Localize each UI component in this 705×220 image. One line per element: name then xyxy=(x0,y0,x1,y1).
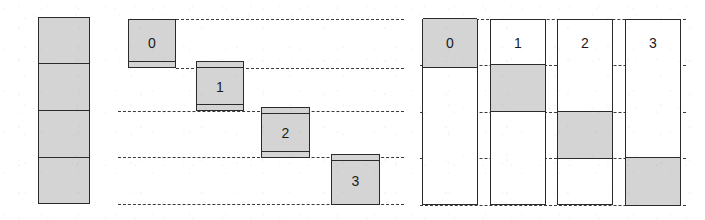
left-column-divider-3 xyxy=(39,157,89,158)
staircase-block-2-label: 2 xyxy=(261,126,310,140)
middle-guide-line-1 xyxy=(176,19,404,20)
right-column-3-filled-segment xyxy=(626,157,680,206)
left-column-outline xyxy=(38,17,90,204)
left-column-divider-2 xyxy=(39,110,89,111)
staircase-block-3-divider-top xyxy=(332,160,379,161)
right-column-3-label: 3 xyxy=(625,36,681,50)
right-column-0-label: 0 xyxy=(422,36,478,50)
block-distribution-diagram: 0 1 2 3 0 xyxy=(0,0,705,220)
staircase-block-2-divider-top xyxy=(262,113,309,114)
staircase-block-1-label: 1 xyxy=(196,80,244,94)
staircase-block-0-label: 0 xyxy=(128,36,176,50)
staircase-block-3-label: 3 xyxy=(331,174,380,188)
right-column-1-filled-segment xyxy=(491,64,545,112)
staircase-block-2-divider-bottom xyxy=(262,151,309,152)
staircase-block-1-divider-bottom xyxy=(197,104,243,105)
right-column-2-filled-segment xyxy=(558,111,612,159)
staircase-block-0-divider xyxy=(129,61,175,62)
left-column-divider-1 xyxy=(39,63,89,64)
staircase-block-1-divider-top xyxy=(197,67,243,68)
right-column-1-label: 1 xyxy=(490,36,546,50)
right-column-2-label: 2 xyxy=(557,36,613,50)
